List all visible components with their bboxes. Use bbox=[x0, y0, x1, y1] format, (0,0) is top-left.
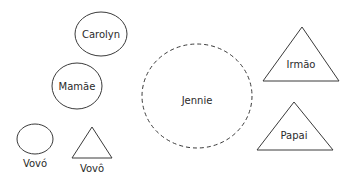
vovo-grandfather-triangle bbox=[72, 127, 112, 158]
papai-label: Papai bbox=[281, 130, 308, 141]
node-irmao: Irmão bbox=[263, 27, 339, 81]
genogram-diagram: Carolyn Mamãe Vovó Vovô Jennie Irmão Pap… bbox=[0, 0, 354, 185]
node-vovo-grandfather: Vovô bbox=[72, 127, 112, 174]
carolyn-label: Carolyn bbox=[82, 29, 120, 40]
node-mamae: Mamãe bbox=[52, 63, 102, 109]
papai-triangle bbox=[257, 102, 333, 150]
irmao-label: Irmão bbox=[287, 59, 316, 70]
node-papai: Papai bbox=[257, 102, 333, 150]
vovo-grandmother-label: Vovó bbox=[23, 158, 47, 169]
irmao-triangle bbox=[263, 27, 339, 81]
vovo-grandfather-label: Vovô bbox=[80, 163, 104, 174]
vovo-grandmother-ellipse bbox=[17, 124, 53, 154]
node-carolyn: Carolyn bbox=[75, 12, 127, 56]
node-vovo-grandmother: Vovó bbox=[17, 124, 53, 169]
jennie-label: Jennie bbox=[181, 95, 213, 106]
node-jennie: Jennie bbox=[142, 44, 252, 148]
mamae-label: Mamãe bbox=[59, 81, 96, 92]
